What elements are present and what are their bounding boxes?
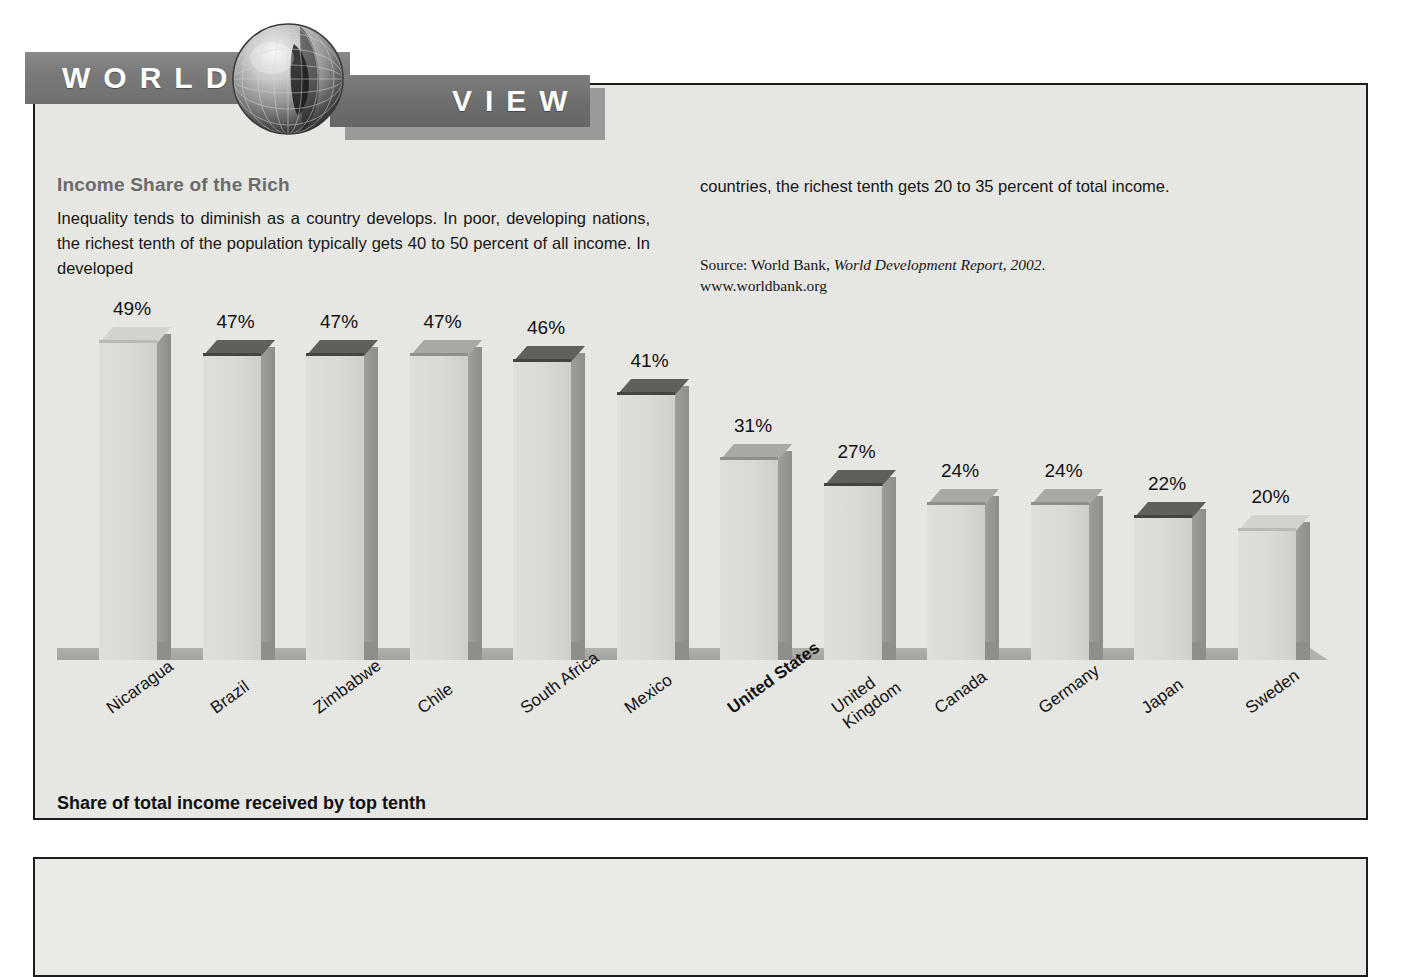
x-label-germany: Germany	[1035, 661, 1103, 717]
bar-value-label: 41%	[631, 350, 669, 372]
chart-x-axis-labels: NicaraguaBrazilZimbabweChileSouth Africa…	[57, 664, 1347, 784]
bar-value-label: 20%	[1252, 486, 1290, 508]
article-body-right: countries, the richest tenth gets 20 to …	[700, 174, 1300, 199]
bar-value-label: 24%	[941, 460, 979, 482]
bar-front-face	[617, 394, 675, 660]
bar-top-face	[824, 470, 896, 486]
bar-top-face	[513, 346, 585, 362]
x-label-zimbabwe: Zimbabwe	[310, 656, 385, 717]
source-title: World Development Report, 2002	[834, 256, 1042, 273]
bar-side-face	[1089, 496, 1103, 660]
bar-chart: 49%47%47%47%46%41%31%27%24%24%22%20%	[57, 330, 1327, 660]
bar-top-face	[617, 379, 689, 395]
bar-front-face	[1031, 504, 1089, 660]
masthead-word-world: WORLD	[62, 52, 240, 104]
source-citation: Source: World Bank, World Development Re…	[700, 254, 1310, 296]
x-label-mexico: Mexico	[621, 670, 676, 717]
bar-side-face	[778, 451, 792, 660]
bar-value-label: 47%	[320, 311, 358, 333]
bar-side-face	[985, 496, 999, 660]
bar-front-face	[824, 485, 882, 660]
bar-front-face	[513, 361, 571, 660]
bar-mexico	[617, 380, 689, 660]
bar-front-face	[410, 355, 468, 660]
bar-front-face	[203, 355, 261, 660]
bar-top-face	[1134, 502, 1206, 518]
bar-front-face	[99, 342, 157, 660]
bar-side-face	[882, 477, 896, 660]
bar-front-face	[720, 459, 778, 660]
source-prefix: Source: World Bank,	[700, 256, 834, 273]
globe-icon	[228, 18, 348, 140]
x-label-sweden: Sweden	[1242, 666, 1303, 717]
bar-south-africa	[513, 347, 585, 660]
x-label-chile: Chile	[414, 679, 457, 717]
bar-united-kingdom	[824, 471, 896, 660]
x-label-canada: Canada	[931, 667, 990, 717]
bar-base-shadow	[985, 642, 999, 660]
bar-germany	[1031, 490, 1103, 660]
bar-side-face	[468, 347, 482, 660]
x-label-nicaragua: Nicaragua	[103, 656, 177, 717]
bar-front-face	[927, 504, 985, 660]
page-title: Income Share of the Rich	[57, 174, 290, 196]
bar-side-face	[675, 386, 689, 660]
bar-top-face	[306, 340, 378, 356]
bar-side-face	[157, 334, 171, 660]
masthead: WORLD VIEW	[0, 0, 1403, 170]
source-suffix: .	[1041, 256, 1045, 273]
bar-base-shadow	[261, 642, 275, 660]
bar-base-shadow	[882, 642, 896, 660]
bar-side-face	[571, 353, 585, 660]
bar-top-face	[1238, 515, 1310, 531]
bar-top-face	[927, 489, 999, 505]
bar-nicaragua	[99, 328, 171, 660]
bar-canada	[927, 490, 999, 660]
masthead-word-view: VIEW	[452, 75, 581, 127]
bar-value-label: 22%	[1148, 473, 1186, 495]
bar-top-face	[203, 340, 275, 356]
bar-base-shadow	[1296, 642, 1310, 660]
next-panel	[33, 857, 1368, 977]
bar-top-face	[99, 327, 171, 343]
bar-base-shadow	[675, 642, 689, 660]
bar-base-shadow	[1192, 642, 1206, 660]
bar-value-label: 49%	[113, 298, 151, 320]
source-url: www.worldbank.org	[700, 277, 827, 294]
bar-sweden	[1238, 516, 1310, 660]
bar-side-face	[1192, 509, 1206, 660]
bar-top-face	[410, 340, 482, 356]
bar-value-label: 47%	[424, 311, 462, 333]
bar-front-face	[1134, 517, 1192, 660]
article-body-left: Inequality tends to diminish as a countr…	[57, 206, 650, 281]
bar-base-shadow	[468, 642, 482, 660]
bar-front-face	[1238, 530, 1296, 660]
bar-value-label: 27%	[838, 441, 876, 463]
bar-japan	[1134, 503, 1206, 660]
bar-chile	[410, 341, 482, 660]
bar-zimbabwe	[306, 341, 378, 660]
bar-value-label: 46%	[527, 317, 565, 339]
bar-united-states	[720, 445, 792, 660]
bar-value-label: 24%	[1045, 460, 1083, 482]
chart-baseline-end	[1310, 648, 1328, 660]
bar-side-face	[1296, 522, 1310, 660]
bar-side-face	[261, 347, 275, 660]
bar-side-face	[364, 347, 378, 660]
bar-front-face	[306, 355, 364, 660]
bar-base-shadow	[1089, 642, 1103, 660]
bar-value-label: 47%	[217, 311, 255, 333]
x-label-united-kingdom: United Kingdom	[828, 663, 905, 733]
x-label-brazil: Brazil	[207, 677, 253, 717]
bar-top-face	[1031, 489, 1103, 505]
chart-caption: Share of total income received by top te…	[57, 793, 426, 814]
bar-top-face	[720, 444, 792, 460]
bar-brazil	[203, 341, 275, 660]
x-label-japan: Japan	[1138, 675, 1187, 718]
bar-value-label: 31%	[734, 415, 772, 437]
